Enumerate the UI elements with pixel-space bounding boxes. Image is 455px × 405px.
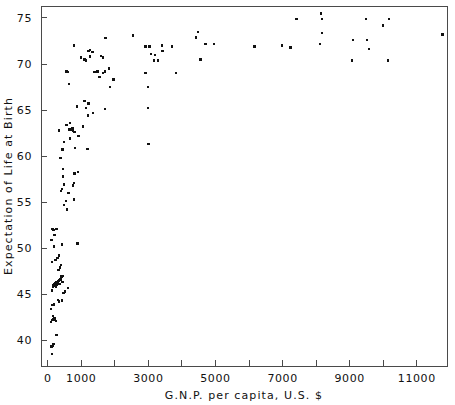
data-point xyxy=(91,51,93,53)
data-point xyxy=(321,18,323,20)
y-tick-label: 60 xyxy=(17,150,32,163)
data-point xyxy=(104,108,106,110)
data-point xyxy=(61,188,63,190)
data-point xyxy=(55,228,57,230)
data-point xyxy=(73,172,75,174)
gnp-life-expectancy-scatter-chart: 01000300050007000900011000 4045505560657… xyxy=(0,0,455,405)
data-point xyxy=(132,34,134,36)
data-point xyxy=(73,182,75,184)
x-tick-label: 0 xyxy=(44,372,52,385)
data-point xyxy=(387,59,389,61)
data-point xyxy=(104,70,106,72)
data-point xyxy=(199,58,201,60)
x-tick-label: 7000 xyxy=(267,372,297,385)
data-point xyxy=(289,46,291,48)
x-axis-title: G.N.P. per capita, U.S. $ xyxy=(165,389,323,402)
y-axis-title: Expectation of Life at Birth xyxy=(2,97,15,275)
data-point xyxy=(64,290,66,292)
data-point xyxy=(89,49,91,51)
y-tick-label: 55 xyxy=(17,196,32,209)
data-point xyxy=(295,18,297,20)
data-point xyxy=(161,44,163,46)
data-point xyxy=(67,71,69,73)
data-point xyxy=(58,254,60,256)
data-point xyxy=(57,269,59,271)
x-tick-label: 9000 xyxy=(334,372,364,385)
data-point xyxy=(83,100,85,102)
data-point xyxy=(98,76,100,78)
data-point xyxy=(87,114,89,116)
data-point xyxy=(76,242,78,244)
data-point xyxy=(352,39,354,41)
scatter-plot-figure: 01000300050007000900011000 4045505560657… xyxy=(0,0,455,405)
data-point xyxy=(87,102,89,104)
data-point xyxy=(61,299,63,301)
data-point xyxy=(112,78,114,80)
data-point xyxy=(85,107,87,109)
y-tick-label: 50 xyxy=(17,242,32,255)
data-point xyxy=(66,208,68,210)
data-point xyxy=(61,243,63,245)
data-point xyxy=(60,264,62,266)
data-point xyxy=(52,343,54,345)
data-point xyxy=(96,70,98,72)
data-point xyxy=(104,37,106,39)
data-point xyxy=(368,48,370,50)
data-point xyxy=(53,245,55,247)
x-tick-label: 1000 xyxy=(66,372,96,385)
data-point xyxy=(365,18,367,20)
data-point xyxy=(69,137,71,139)
data-point xyxy=(366,39,368,41)
data-point xyxy=(56,257,58,259)
data-point xyxy=(50,345,52,347)
data-point xyxy=(74,147,76,149)
data-point xyxy=(59,278,61,280)
data-point xyxy=(89,55,91,57)
data-point xyxy=(76,105,78,107)
data-point xyxy=(321,32,323,34)
data-point xyxy=(54,317,56,319)
data-point xyxy=(147,143,149,145)
data-point xyxy=(72,184,74,186)
data-point xyxy=(63,141,65,143)
data-point xyxy=(171,45,173,47)
data-point xyxy=(441,33,443,35)
data-point xyxy=(61,148,63,150)
data-point xyxy=(204,43,206,45)
data-point xyxy=(144,45,146,47)
data-point xyxy=(53,234,55,236)
data-point xyxy=(59,266,61,268)
data-point xyxy=(61,281,63,283)
x-tick-label: 5000 xyxy=(200,372,230,385)
data-point xyxy=(63,183,65,185)
data-point xyxy=(320,12,322,14)
data-point xyxy=(58,283,60,285)
data-point xyxy=(197,31,199,33)
data-point xyxy=(67,287,69,289)
y-tick-label: 65 xyxy=(17,104,32,117)
data-point xyxy=(50,308,52,310)
data-point xyxy=(71,127,73,129)
data-point xyxy=(58,300,60,302)
data-point xyxy=(68,83,70,85)
data-point xyxy=(50,239,52,241)
data-point xyxy=(86,148,88,150)
y-tick-label: 75 xyxy=(17,12,32,25)
data-point xyxy=(157,59,159,61)
x-tick-label: 11000 xyxy=(398,372,436,385)
data-point xyxy=(58,129,60,131)
y-tick-label: 40 xyxy=(17,334,32,347)
data-point xyxy=(85,59,87,61)
data-point xyxy=(108,67,110,69)
y-tick-label: 45 xyxy=(17,288,32,301)
data-point xyxy=(382,24,384,26)
data-point xyxy=(195,36,197,38)
data-point xyxy=(62,275,64,277)
data-point xyxy=(154,54,156,56)
data-point xyxy=(62,168,64,170)
data-point xyxy=(153,59,155,61)
data-point xyxy=(109,86,111,88)
data-point xyxy=(175,72,177,74)
data-point xyxy=(65,124,67,126)
data-point xyxy=(319,43,321,45)
